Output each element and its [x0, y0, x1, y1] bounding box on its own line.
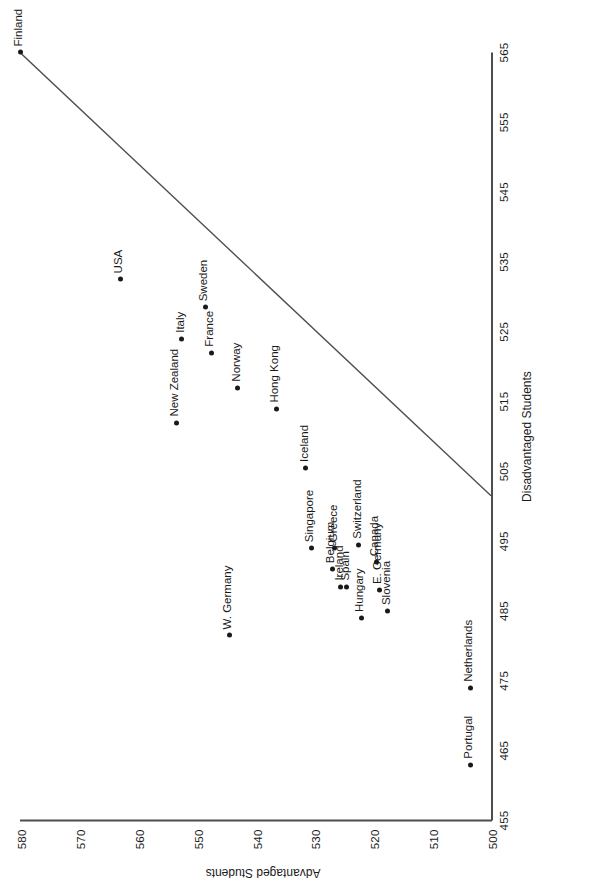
data-point-marker: [356, 542, 361, 547]
data-point-label: New Zealand: [168, 348, 180, 416]
data-point-marker: [338, 584, 343, 589]
data-point-label: Slovenia: [380, 560, 392, 604]
data-point-label: Norway: [230, 342, 242, 381]
data-point-marker: [18, 50, 23, 55]
data-point-marker: [303, 465, 308, 470]
x-tick-label: 565: [498, 42, 510, 62]
data-point-label: Switzerland: [351, 479, 363, 538]
x-axis-title: Disadvantaged Students: [520, 371, 534, 502]
data-point-label: Greece: [327, 504, 339, 542]
data-point-marker: [203, 304, 208, 309]
data-point-marker: [309, 545, 314, 550]
data-point-label: Singapore: [303, 489, 315, 541]
x-tick-label: 475: [498, 670, 510, 690]
data-point-marker: [344, 584, 349, 589]
data-point-marker: [227, 632, 232, 637]
data-point-label: USA: [112, 249, 124, 273]
data-point-label: Italy: [174, 311, 186, 332]
x-tick-label: 485: [498, 601, 510, 621]
y-axis-line: [20, 820, 492, 822]
y-tick-wrapper: 520: [365, 829, 383, 889]
data-point-label: Sweden: [197, 259, 209, 301]
data-point-marker: [274, 406, 279, 411]
data-point-label: Spain: [339, 551, 351, 580]
data-point-label: W. Germany: [221, 565, 233, 629]
y-tick-label: 570: [75, 829, 87, 849]
x-tick-label: 545: [498, 182, 510, 202]
y-tick-wrapper: 570: [71, 829, 89, 889]
data-point-marker: [468, 685, 473, 690]
y-tick-wrapper: 560: [130, 829, 148, 889]
data-point-label: France: [203, 310, 215, 346]
data-point-label: Iceland: [298, 424, 310, 461]
x-tick-label: 465: [498, 740, 510, 760]
y-tick-label: 560: [134, 829, 146, 849]
x-tick-label: 525: [498, 321, 510, 341]
y-tick-wrapper: 500: [483, 829, 501, 889]
y-axis-title: Advantaged Students: [153, 865, 373, 879]
y-tick-wrapper: 580: [12, 829, 30, 889]
data-point-marker: [359, 615, 364, 620]
scatter-plot-figure: 455465475485495505515525535545555565 500…: [0, 0, 592, 889]
y-tick-wrapper: 550: [189, 829, 207, 889]
data-point-marker: [118, 276, 123, 281]
y-tick-label: 500: [487, 829, 499, 849]
x-tick-label: 455: [498, 810, 510, 830]
y-tick-label: 520: [369, 829, 381, 849]
y-tick-label: 510: [428, 829, 440, 849]
y-tick-wrapper: 530: [306, 829, 324, 889]
data-point-label: Netherlands: [462, 619, 474, 681]
x-tick-label: 535: [498, 252, 510, 272]
data-point-marker: [235, 385, 240, 390]
data-point-marker: [385, 608, 390, 613]
y-tick-wrapper: 540: [248, 829, 266, 889]
y-tick-label: 550: [193, 829, 205, 849]
x-tick-label: 505: [498, 461, 510, 481]
data-point-label: Hungary: [353, 568, 365, 611]
data-point-label: Finland: [12, 8, 24, 46]
y-tick-label: 540: [252, 829, 264, 849]
x-tick-label: 495: [498, 531, 510, 551]
data-point-marker: [179, 336, 184, 341]
data-point-marker: [174, 420, 179, 425]
y-tick-label: 580: [16, 829, 28, 849]
x-axis-line: [491, 52, 493, 820]
data-point-label: Hong Kong: [268, 345, 280, 403]
data-point-marker: [209, 350, 214, 355]
data-point-marker: [468, 762, 473, 767]
figure-rotation-wrapper: 455465475485495505515525535545555565 500…: [0, 0, 592, 889]
x-tick-label: 515: [498, 391, 510, 411]
y-tick-label: 530: [310, 829, 322, 849]
data-point-label: Portugal: [462, 715, 474, 758]
x-tick-label: 555: [498, 112, 510, 132]
y-tick-wrapper: 510: [424, 829, 442, 889]
